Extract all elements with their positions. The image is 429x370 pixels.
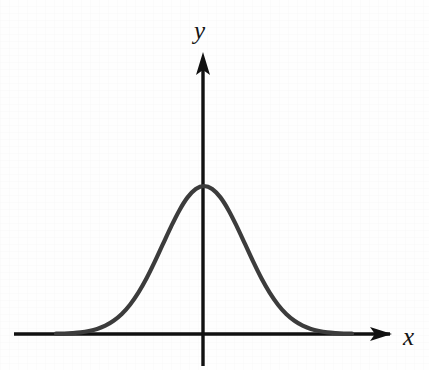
figure-container: y x <box>0 0 429 370</box>
x-axis-label: x <box>403 324 414 349</box>
bell-curve-figure <box>0 0 429 370</box>
y-axis-label: y <box>194 18 205 43</box>
